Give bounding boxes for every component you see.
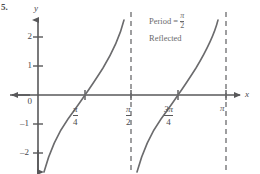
fraction-bar: [164, 115, 173, 116]
x-tick-pi-over-2-denominator: 2: [124, 117, 133, 127]
x-tick-label-3pi-over-4: 3π 4: [162, 104, 175, 127]
annotation-block: Period = π 2 Reflected: [149, 12, 184, 43]
x-axis-label: x: [245, 90, 249, 99]
y-tick-label-2: 2: [16, 32, 32, 41]
y-tick-label-0: 0: [16, 97, 32, 106]
x-tick-label-pi-over-2: π 2: [124, 104, 133, 127]
x-tick-pi-over-4-denominator: 4: [71, 117, 80, 127]
curve-branch-1: [44, 20, 124, 172]
period-annotation: Period = π 2: [149, 12, 184, 30]
y-tick-label-minus-2: –2: [13, 148, 29, 157]
x-tick-pi-over-2-numerator: π: [124, 104, 133, 114]
x-tick-3pi-over-4-denominator: 4: [162, 117, 175, 127]
period-denominator: 2: [180, 22, 184, 30]
problem-number: 5.: [1, 3, 8, 12]
x-tick-pi-over-4-numerator: π: [71, 104, 80, 114]
x-tick-label-pi-over-4: π 4: [71, 104, 80, 127]
y-axis-label: y: [34, 4, 38, 13]
x-tick-label-pi: π: [220, 104, 225, 113]
period-fraction: π 2: [180, 12, 184, 30]
fraction-bar: [126, 115, 131, 116]
period-numerator: π: [180, 12, 184, 20]
period-label: Period =: [149, 16, 178, 26]
tangent-graph-figure: 5. y x 2 1 0 –1 –2 π 4 π 2 3π 4 π Period…: [0, 0, 260, 174]
y-tick-label-1: 1: [16, 61, 32, 70]
x-tick-3pi-over-4-numerator: 3π: [162, 104, 175, 114]
reflected-annotation: Reflected: [149, 33, 184, 43]
fraction-bar: [73, 115, 78, 116]
plot-canvas: [0, 0, 260, 174]
y-tick-label-minus-1: –1: [13, 119, 29, 128]
